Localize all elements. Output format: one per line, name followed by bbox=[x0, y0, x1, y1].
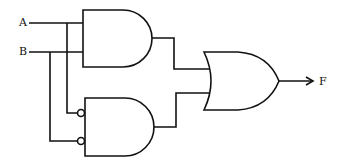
wire-b-down bbox=[50, 52, 77, 141]
wire-and2-or bbox=[154, 93, 210, 127]
logic-diagram: A B F bbox=[0, 0, 340, 162]
inverter-bubble-a bbox=[78, 110, 85, 117]
output-label-f: F bbox=[319, 76, 327, 87]
inverter-bubble-b bbox=[78, 138, 85, 145]
wire-and1-or bbox=[152, 38, 210, 69]
or-gate bbox=[204, 52, 279, 110]
and-gate-1 bbox=[83, 10, 152, 67]
input-label-b: B bbox=[19, 46, 27, 57]
and-gate-2 bbox=[85, 98, 154, 156]
circuit-svg bbox=[0, 0, 340, 162]
wire-a-down bbox=[67, 23, 77, 113]
input-label-a: A bbox=[19, 17, 27, 28]
